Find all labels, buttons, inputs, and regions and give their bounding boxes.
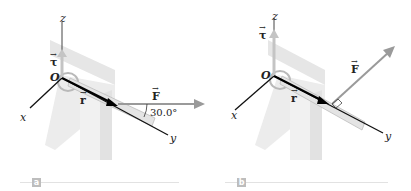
panel-b-drawing <box>205 0 411 191</box>
panel-a-drawing <box>0 0 205 191</box>
panel-b: z x y O →τ →r →F b <box>205 0 411 191</box>
position-label: →r <box>291 93 297 104</box>
z-axis-label: z <box>60 13 66 24</box>
caption-rule-left <box>225 182 237 183</box>
x-axis-label: x <box>20 112 26 123</box>
panel-a: z x y O →τ →r →F 30.0° a <box>0 0 205 191</box>
caption-rule <box>41 182 179 183</box>
panel-tag-b: b <box>237 178 246 187</box>
angle-label: 30.0° <box>150 108 177 118</box>
torque-label: →τ <box>259 30 266 41</box>
origin-label: O <box>50 72 60 83</box>
y-axis-label: y <box>170 133 176 144</box>
x-axis-label: x <box>231 110 237 121</box>
caption-rule <box>246 182 388 183</box>
origin-label: O <box>261 70 271 81</box>
panel-tag-a: a <box>32 178 41 187</box>
force-arrowhead <box>194 99 205 109</box>
z-axis-label: z <box>272 11 278 22</box>
force-vector <box>332 52 389 104</box>
force-label: →F <box>351 64 359 75</box>
caption-rule-left <box>20 182 32 183</box>
y-axis-label: y <box>385 131 391 142</box>
torque-arrowhead <box>269 29 279 38</box>
torque-label: →τ <box>50 57 57 68</box>
position-label: →r <box>80 95 86 106</box>
force-label: →F <box>152 91 160 102</box>
